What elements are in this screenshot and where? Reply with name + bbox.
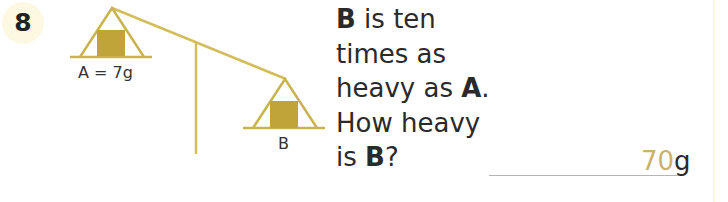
question-line-3: heavy as A. [336, 71, 490, 106]
pan-b [243, 79, 325, 128]
answer-value: 70 [641, 146, 674, 176]
answer-unit: g [674, 146, 691, 176]
question-line-4: How heavy [336, 106, 490, 141]
question-line-5: is B? [336, 140, 490, 175]
weight-a [97, 30, 125, 56]
page-margin-line [713, 0, 715, 202]
question-line-1: B is ten [336, 2, 490, 37]
pan-a [70, 8, 152, 57]
weight-b [270, 101, 298, 128]
balance-beam [112, 8, 286, 79]
answer-field[interactable]: 70g [641, 146, 691, 176]
balance-scale-diagram [0, 0, 340, 202]
label-b: B [278, 134, 289, 153]
label-a: A = 7g [78, 63, 133, 82]
question-line-2: times as [336, 37, 490, 72]
question-text: B is ten times as heavy as A. How heavy … [336, 2, 490, 175]
